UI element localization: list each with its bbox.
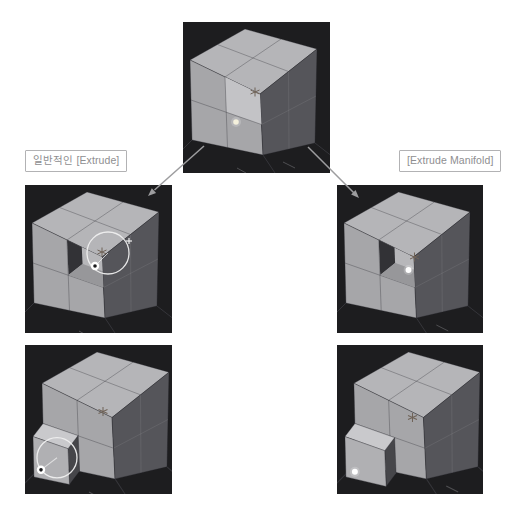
viewport-original-cube	[183, 22, 330, 173]
viewport-manifold-extrude-inward	[337, 185, 483, 333]
viewport-normal-extrude-outward	[25, 345, 172, 494]
viewport-manifold-extrude-outward	[337, 345, 483, 494]
label-normal-extrude: 일반적인 [Extrude]	[25, 150, 127, 172]
selected-center-dot	[91, 262, 99, 270]
label-extrude-manifold: [Extrude Manifold]	[399, 150, 501, 172]
label-extrude-manifold-text: [Extrude Manifold]	[407, 154, 493, 166]
face-center-dot	[350, 467, 360, 477]
selected-center-dot	[37, 466, 45, 474]
face-center-dot	[231, 117, 241, 127]
label-normal-extrude-text: 일반적인 [Extrude]	[33, 154, 119, 166]
figure-extrude-comparison: 일반적인 [Extrude] [Extrude Manifold]	[0, 0, 512, 524]
viewport-normal-extrude-inward	[25, 185, 172, 333]
face-center-dot	[404, 265, 414, 275]
